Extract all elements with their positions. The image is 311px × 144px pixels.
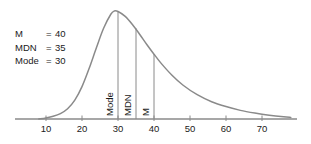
legend-row: Mode = 30 bbox=[15, 54, 66, 68]
legend-label: M bbox=[15, 27, 46, 41]
x-tick-label: 40 bbox=[143, 123, 165, 134]
x-tick-label: 50 bbox=[179, 123, 201, 134]
distribution-curve-group bbox=[39, 11, 291, 119]
x-axis-group bbox=[15, 116, 297, 122]
distribution-chart: M = 40 MDN = 35 Mode = 30 ModeMDNM 10203… bbox=[0, 0, 311, 144]
x-tick-label: 30 bbox=[107, 123, 129, 134]
legend-equals: = bbox=[46, 41, 55, 55]
legend-row: M = 40 bbox=[15, 27, 66, 41]
x-tick-label: 70 bbox=[251, 123, 273, 134]
reference-label-m: M bbox=[140, 108, 151, 116]
legend-value: 30 bbox=[55, 54, 66, 68]
distribution-curve bbox=[39, 11, 291, 119]
x-tick-label: 10 bbox=[35, 123, 57, 134]
x-tick-label: 20 bbox=[71, 123, 93, 134]
legend-value: 40 bbox=[55, 27, 66, 41]
statistics-legend: M = 40 MDN = 35 Mode = 30 bbox=[15, 27, 66, 68]
legend-row: MDN = 35 bbox=[15, 41, 66, 55]
legend-label: Mode bbox=[15, 54, 46, 68]
legend-equals: = bbox=[46, 27, 55, 41]
reference-label-mdn: MDN bbox=[122, 94, 133, 116]
legend-label: MDN bbox=[15, 41, 46, 55]
legend-value: 35 bbox=[55, 41, 66, 55]
legend-equals: = bbox=[46, 54, 55, 68]
x-tick-label: 60 bbox=[215, 123, 237, 134]
reference-label-mode: Mode bbox=[104, 92, 115, 116]
